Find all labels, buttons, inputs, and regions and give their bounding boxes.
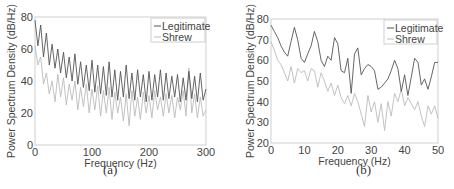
legend-label-shrew: Shrew	[162, 31, 192, 43]
psd-chart-b: 0102030405020304050607080Frequency (Hz)P…	[227, 0, 454, 189]
x-tick-label: 50	[432, 144, 444, 156]
x-tick-label: 300	[197, 146, 215, 158]
y-axis-label: Power Spectrum Density (dB/Hz)	[5, 4, 17, 158]
y-axis-label: Power Spectrum Density (dB/Hz)	[244, 4, 256, 158]
y-tick-label: 60	[21, 43, 33, 55]
y-tick-label: 70	[257, 34, 269, 46]
chart-panel-b: 0102030405020304050607080Frequency (Hz)P…	[227, 0, 454, 189]
x-axis-label: Frequency (Hz)	[318, 155, 390, 167]
x-axis-label: Frequency (Hz)	[84, 157, 156, 169]
legend: LegitimateShrew	[384, 20, 444, 45]
y-tick-label: 60	[257, 54, 269, 66]
x-tick-label: 10	[298, 144, 310, 156]
legend-label-shrew: Shrew	[395, 33, 425, 45]
y-tick-label: 50	[257, 75, 269, 87]
y-tick-label: 20	[21, 107, 33, 119]
y-tick-label: 20	[257, 137, 269, 149]
x-tick-label: 40	[398, 144, 410, 156]
caption-b: (b)	[356, 162, 371, 178]
chart-panel-a: 0100200300020406080Frequency (Hz)Power S…	[0, 0, 227, 189]
y-tick-label: 40	[257, 96, 269, 108]
y-tick-label: 80	[21, 11, 33, 23]
caption-a: (a)	[103, 162, 117, 178]
y-tick-label: 40	[21, 75, 33, 87]
y-tick-label: 80	[257, 13, 269, 25]
y-tick-label: 30	[257, 116, 269, 128]
y-tick-label: 0	[27, 139, 33, 151]
psd-chart-a: 0100200300020406080Frequency (Hz)Power S…	[0, 0, 227, 189]
series-line-shrew	[35, 46, 206, 126]
legend: LegitimateShrew	[151, 18, 211, 43]
